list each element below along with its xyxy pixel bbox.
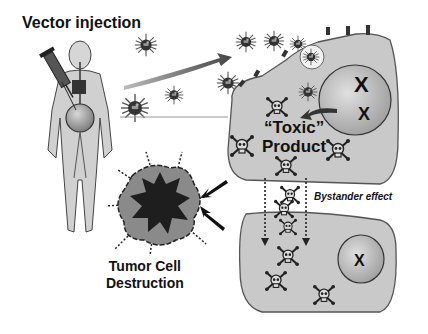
bystander-effect-label: Bystander effect	[314, 191, 392, 202]
toxic-line2: Product	[262, 137, 326, 156]
toxic-line1: “Toxic”	[262, 118, 326, 137]
tumor-line2: Destruction	[106, 275, 184, 292]
svg-text:X: X	[354, 252, 365, 269]
toxic-product-label: “Toxic” Product	[262, 118, 326, 156]
arrow-to-cell	[124, 53, 232, 90]
svg-text:X: X	[354, 72, 369, 97]
svg-text:X: X	[358, 104, 370, 124]
arrows-to-tumor	[200, 180, 228, 231]
tumor-line1: Tumor Cell	[106, 258, 184, 275]
vector-injection-label: Vector injection	[22, 14, 141, 32]
tumor-destruction-label: Tumor Cell Destruction	[106, 258, 184, 292]
tumor-burst	[106, 152, 208, 256]
